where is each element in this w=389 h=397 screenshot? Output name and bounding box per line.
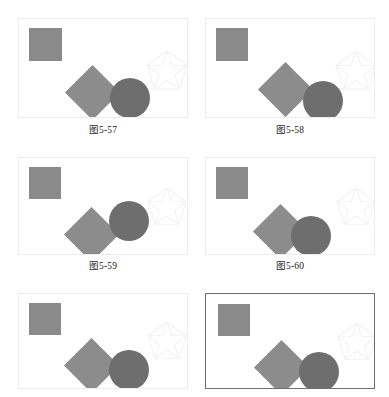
- square-shape[interactable]: [29, 167, 61, 199]
- star-icon: [147, 322, 187, 362]
- figure-grid: 图5-57图5-58图5-59图5-60: [0, 0, 389, 397]
- square-shape[interactable]: [216, 28, 248, 61]
- illustration-panel[interactable]: [205, 157, 375, 255]
- figure-caption: 图5-59: [18, 258, 188, 272]
- circle-shape[interactable]: [109, 350, 149, 389]
- illustration-panel[interactable]: [18, 157, 188, 255]
- circle-shape[interactable]: [109, 201, 149, 241]
- star-icon: [147, 188, 187, 228]
- circle-shape[interactable]: [110, 78, 150, 118]
- figure-sheet: 图5-57图5-58图5-59图5-60: [0, 0, 389, 397]
- figure-cell-5: [18, 293, 188, 389]
- illustration-panel[interactable]: [18, 293, 188, 389]
- illustration-panel[interactable]: [18, 18, 188, 118]
- star-icon: [146, 51, 188, 93]
- star-icon: [336, 188, 375, 228]
- figure-cell-4: 图5-60: [205, 157, 375, 255]
- circle-shape[interactable]: [303, 81, 343, 118]
- figure-cell-6: [205, 293, 375, 389]
- star-icon: [335, 51, 375, 93]
- figure-cell-3: 图5-59: [18, 157, 188, 255]
- square-shape[interactable]: [29, 303, 61, 335]
- square-shape[interactable]: [29, 28, 62, 61]
- figure-caption: 图5-58: [205, 122, 375, 136]
- illustration-panel-selected[interactable]: [205, 293, 375, 389]
- figure-cell-2: 图5-58: [205, 18, 375, 118]
- square-shape[interactable]: [216, 167, 248, 199]
- circle-shape[interactable]: [299, 352, 339, 389]
- figure-caption: 图5-57: [18, 122, 188, 136]
- circle-shape[interactable]: [291, 216, 331, 255]
- illustration-panel[interactable]: [205, 18, 375, 118]
- star-icon: [337, 323, 375, 363]
- figure-caption: 图5-60: [205, 258, 375, 272]
- figure-cell-1: 图5-57: [18, 18, 188, 118]
- square-shape[interactable]: [218, 304, 250, 336]
